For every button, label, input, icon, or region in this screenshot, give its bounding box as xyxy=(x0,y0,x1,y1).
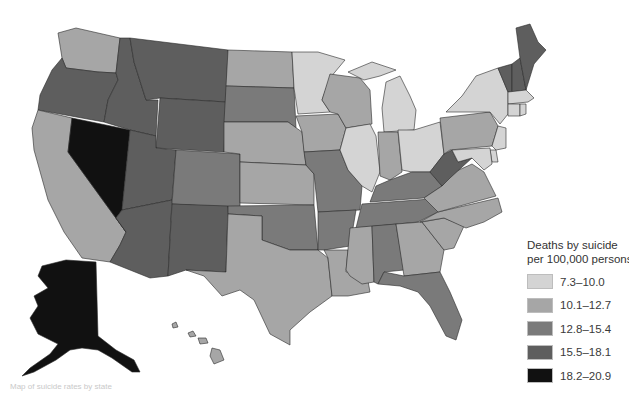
legend-item: 15.5–18.1 xyxy=(527,345,629,360)
legend-item: 18.2–20.9 xyxy=(527,368,629,383)
state-IN xyxy=(378,132,402,180)
state-MS xyxy=(346,226,374,284)
state-KS xyxy=(240,162,314,205)
legend-item: 12.8–15.4 xyxy=(527,321,629,336)
legend-title-line2: per 100,000 persons xyxy=(527,252,629,266)
state-MT xyxy=(130,38,228,102)
legend-title-line1: Deaths by suicide xyxy=(527,238,629,252)
state-CT xyxy=(508,104,520,116)
legend-label: 12.8–15.4 xyxy=(560,323,611,335)
caption: Map of suicide rates by state xyxy=(10,382,112,391)
legend-swatch xyxy=(527,368,553,383)
state-WY xyxy=(156,98,226,152)
legend-swatch xyxy=(527,274,553,289)
state-FL xyxy=(378,272,462,340)
state-ND xyxy=(226,50,294,88)
legend-label: 10.1–12.7 xyxy=(560,299,611,311)
legend-swatch xyxy=(527,321,553,336)
legend: Deaths by suicide per 100,000 persons 7.… xyxy=(527,238,629,392)
legend-label: 15.5–18.1 xyxy=(560,346,611,358)
state-MA xyxy=(508,90,534,104)
legend-item: 10.1–12.7 xyxy=(527,298,629,313)
legend-title: Deaths by suicide per 100,000 persons xyxy=(527,238,629,266)
legend-label: 18.2–20.9 xyxy=(560,370,611,382)
state-AK xyxy=(22,260,140,376)
state-HI xyxy=(172,322,224,364)
legend-label: 7.3–10.0 xyxy=(560,276,605,288)
state-NM xyxy=(168,204,228,276)
legend-item: 7.3–10.0 xyxy=(527,274,629,289)
state-PA xyxy=(440,112,498,154)
state-IA xyxy=(296,114,346,152)
legend-swatch xyxy=(527,298,553,313)
state-WA xyxy=(58,28,120,73)
legend-swatch xyxy=(527,345,553,360)
state-CO xyxy=(172,150,240,208)
state-RI xyxy=(520,104,526,116)
